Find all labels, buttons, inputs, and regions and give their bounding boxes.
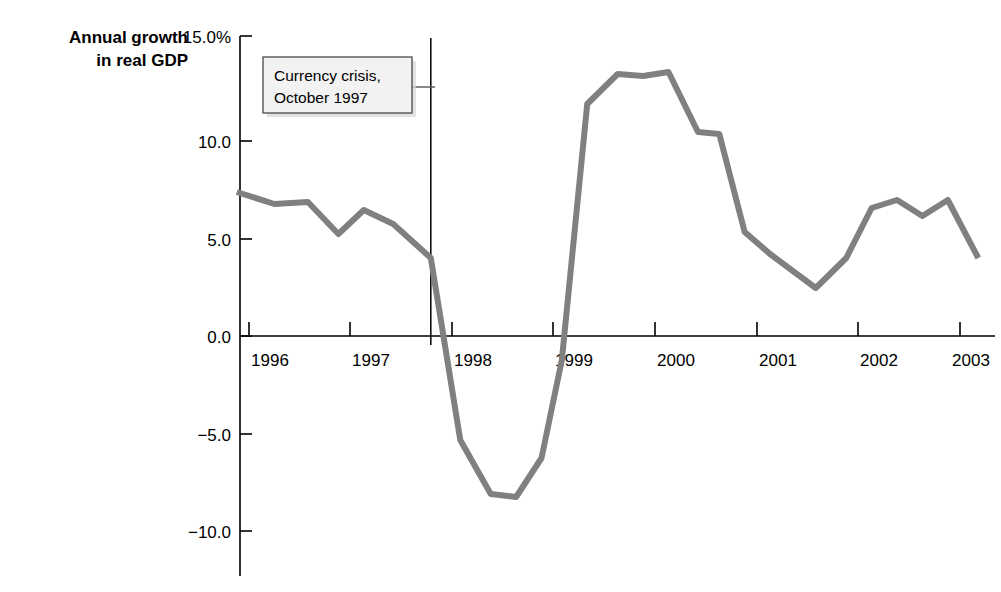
gdp-growth-line xyxy=(237,72,978,497)
x-tick-label-2003: 2003 xyxy=(952,351,990,370)
y-axis-tick-labels: 15.0% 10.0 5.0 0.0 −5.0 −10.0 xyxy=(183,28,231,542)
y-tick-label-5: 5.0 xyxy=(207,231,231,250)
x-tick-label-2002: 2002 xyxy=(860,351,898,370)
y-tick-label-10: 10.0 xyxy=(198,133,231,152)
y-axis-ticks xyxy=(240,36,252,531)
y-tick-label-0: 0.0 xyxy=(207,328,231,347)
callout-line-2: October 1997 xyxy=(274,89,368,106)
callout-line-1: Currency crisis, xyxy=(274,67,381,84)
currency-crisis-callout: Currency crisis, October 1997 xyxy=(263,57,416,117)
y-tick-label-15: 15.0% xyxy=(183,28,231,47)
chart-canvas: 15.0% 10.0 5.0 0.0 −5.0 −10.0 1996 1997 … xyxy=(0,0,1001,592)
gdp-growth-chart: Annual growth in real GDP 15.0% 10.0 5.0… xyxy=(0,0,1001,592)
x-tick-label-1996: 1996 xyxy=(251,351,289,370)
x-axis-tick-labels: 1996 1997 1998 1999 2000 2001 2002 2003 xyxy=(251,351,990,370)
x-tick-label-2001: 2001 xyxy=(759,351,797,370)
x-tick-label-2000: 2000 xyxy=(657,351,695,370)
x-tick-label-1998: 1998 xyxy=(454,351,492,370)
y-tick-label-neg10: −10.0 xyxy=(188,523,231,542)
x-tick-label-1997: 1997 xyxy=(352,351,390,370)
y-axis-title: Annual growth in real GDP xyxy=(18,27,188,73)
y-tick-label-neg5: −5.0 xyxy=(197,426,231,445)
x-axis-ticks xyxy=(249,322,960,336)
